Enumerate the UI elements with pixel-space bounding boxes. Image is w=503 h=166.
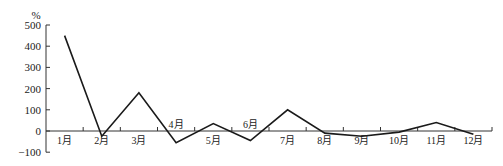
x-tick-label: 12月 xyxy=(463,135,483,146)
line-chart: −1000100200300400500 1月2月3月4月5月6月7月8月9月1… xyxy=(0,0,503,166)
x-tick-label: 5月 xyxy=(206,135,221,146)
y-tick-label: 100 xyxy=(25,104,42,116)
y-tick-label: −100 xyxy=(18,146,41,158)
x-tick-label: 3月 xyxy=(131,135,146,146)
x-tick-label: 7月 xyxy=(280,135,295,146)
series-line xyxy=(65,36,474,143)
data-series xyxy=(65,36,474,143)
y-axis-unit-label: % xyxy=(31,9,40,21)
x-tick-label: 4月 xyxy=(169,119,184,130)
y-tick-label: 0 xyxy=(36,125,42,137)
x-tick-label: 6月 xyxy=(243,119,258,130)
y-tick-label: 400 xyxy=(25,40,42,52)
y-tick-label: 300 xyxy=(25,61,42,73)
x-tick-label: 10月 xyxy=(389,135,409,146)
y-tick-label: 200 xyxy=(25,83,42,95)
x-tick-label: 8月 xyxy=(317,135,332,146)
x-tick-label: 11月 xyxy=(426,135,446,146)
y-axis: −1000100200300400500 xyxy=(18,19,50,158)
x-tick-label: 1月 xyxy=(57,135,72,146)
